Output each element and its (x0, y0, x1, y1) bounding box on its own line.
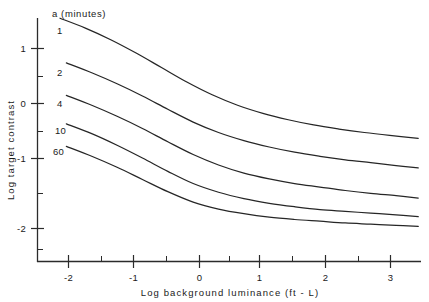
x-tick-label-0: 0 (197, 272, 203, 283)
x-tick-label-1: 1 (257, 272, 263, 283)
legend-title: a (minutes) (52, 8, 106, 19)
series-label-10: 10 (55, 125, 66, 136)
x-tick-label-2: 2 (323, 272, 329, 283)
y-tick-label-0: 0 (20, 98, 26, 109)
y-tick-label-1: 1 (20, 43, 26, 54)
y-axis-title: Log target contrast (5, 100, 16, 200)
y-tick-label-neg1: -1 (17, 153, 26, 164)
y-tick-label-neg2: -2 (17, 223, 26, 234)
chart-figure: 1 0 -1 -2 -2 -1 0 1 2 3 Log background l… (0, 0, 429, 302)
x-tick-label-neg1: -1 (129, 272, 138, 283)
series-label-1: 1 (57, 25, 63, 36)
series-label-60: 60 (53, 146, 64, 157)
chart-background (0, 0, 429, 302)
x-tick-label-neg2: -2 (64, 272, 73, 283)
x-tick-label-3: 3 (388, 272, 394, 283)
series-label-2: 2 (57, 67, 63, 78)
series-label-4: 4 (57, 98, 63, 109)
x-axis-title: Log background luminance (ft - L) (141, 287, 319, 298)
